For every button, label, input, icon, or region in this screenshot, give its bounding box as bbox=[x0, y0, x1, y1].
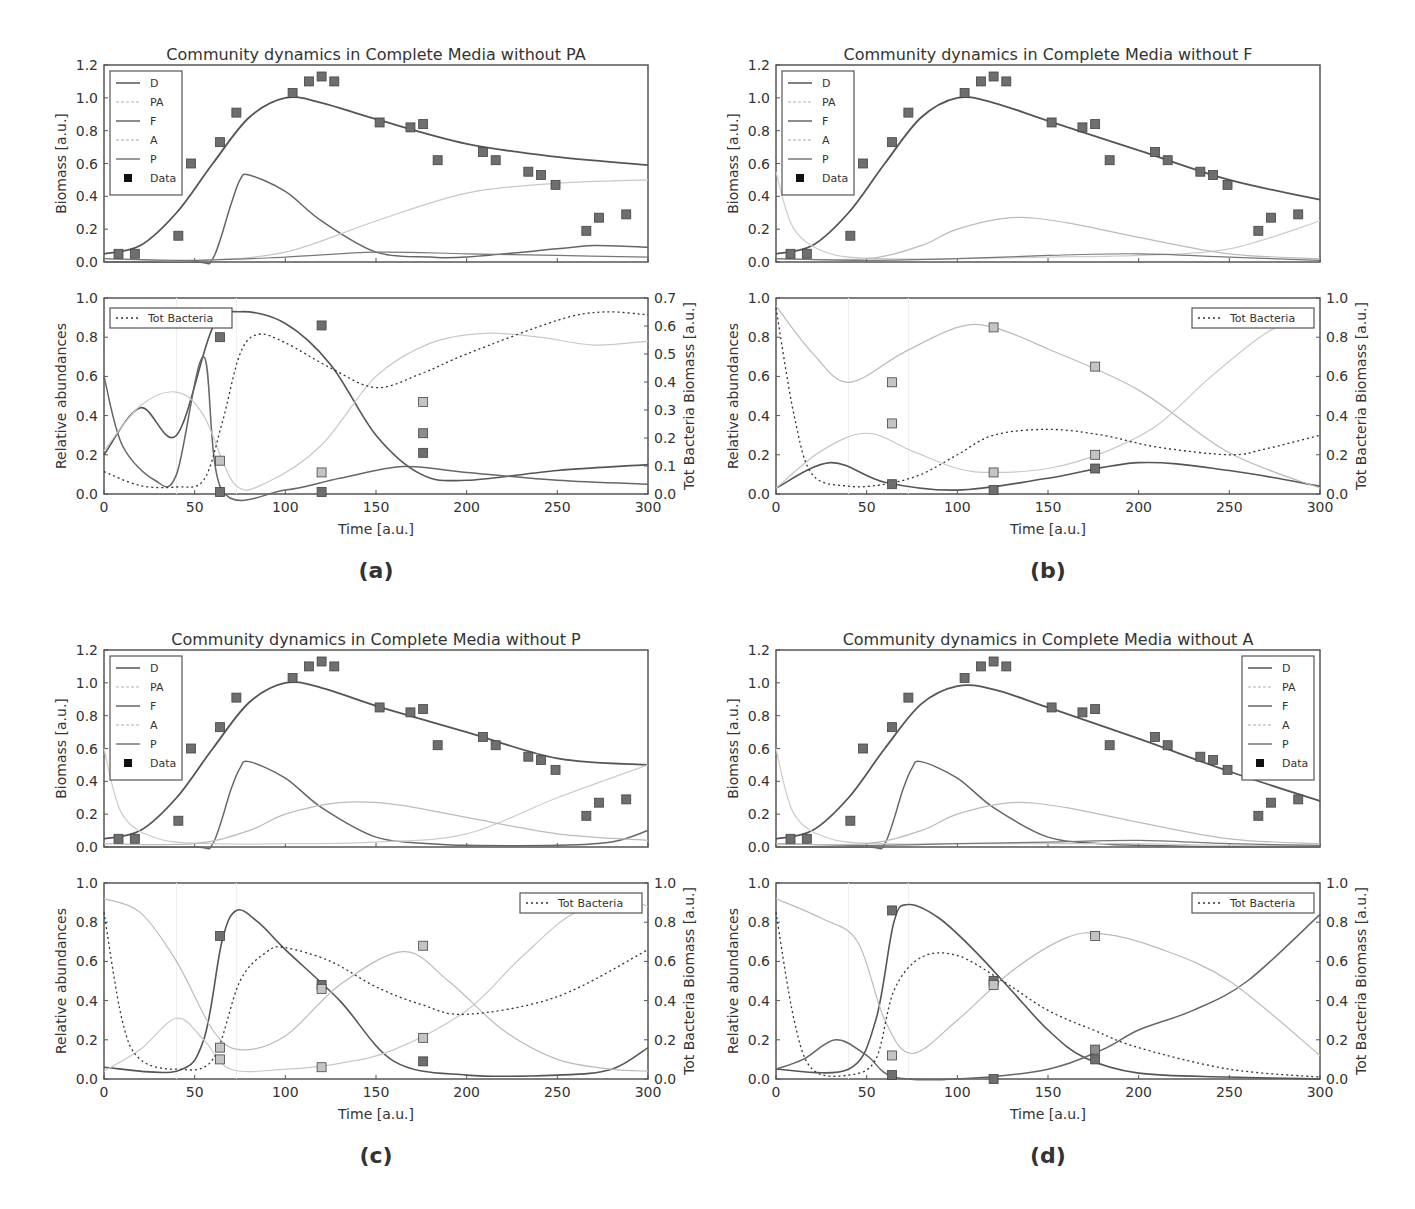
y-tick-label: 0.2 bbox=[748, 447, 770, 463]
subfigure-caption: (b) bbox=[1030, 558, 1066, 583]
data-marker bbox=[433, 156, 442, 165]
x-tick-label: 50 bbox=[858, 499, 876, 515]
relative-abundance-plot: 0.00.20.40.60.81.00.00.10.20.30.40.50.60… bbox=[53, 290, 697, 537]
data-marker bbox=[595, 798, 604, 807]
y-tick-label: 0.2 bbox=[76, 1032, 98, 1048]
data-marker bbox=[1091, 450, 1100, 459]
legend-label: PA bbox=[1282, 681, 1296, 694]
y-tick-label: 1.0 bbox=[76, 290, 98, 306]
data-marker bbox=[216, 138, 225, 147]
biomass-legend: DPAFAPData bbox=[782, 71, 854, 195]
figure-panel-c: Community dynamics in Complete Media wit… bbox=[0, 585, 720, 1174]
data-marker bbox=[888, 1051, 897, 1060]
x-tick-label: 100 bbox=[272, 1084, 299, 1100]
x-tick-label: 100 bbox=[944, 499, 971, 515]
legend-label: P bbox=[1282, 738, 1289, 751]
data-marker bbox=[904, 693, 913, 702]
x-tick-label: 200 bbox=[453, 1084, 480, 1100]
biomass-plot: 0.00.20.40.60.81.01.2Biomass [a.u.]DPAFA… bbox=[53, 57, 648, 270]
y2-tick-label: 0.8 bbox=[1326, 914, 1348, 930]
x-tick-label: 250 bbox=[544, 1084, 571, 1100]
data-marker bbox=[1091, 931, 1100, 940]
data-marker bbox=[216, 931, 225, 940]
data-marker bbox=[1002, 77, 1011, 86]
data-marker bbox=[1091, 1055, 1100, 1064]
data-marker bbox=[582, 811, 591, 820]
subfigure-caption: (c) bbox=[359, 1143, 392, 1168]
data-marker bbox=[1105, 156, 1114, 165]
data-marker bbox=[846, 816, 855, 825]
data-marker bbox=[1254, 226, 1263, 235]
data-marker bbox=[174, 231, 183, 240]
legend-label: PA bbox=[150, 681, 164, 694]
data-marker bbox=[551, 180, 560, 189]
data-marker bbox=[622, 210, 631, 219]
subfigure-caption: (a) bbox=[359, 558, 394, 583]
y-tick-label: 0.0 bbox=[76, 1071, 98, 1087]
x-tick-label: 50 bbox=[858, 1084, 876, 1100]
data-marker bbox=[960, 673, 969, 682]
data-marker bbox=[1267, 213, 1276, 222]
x-tick-label: 50 bbox=[186, 499, 204, 515]
legend-label: A bbox=[1282, 719, 1290, 732]
data-marker bbox=[859, 159, 868, 168]
x-tick-label: 100 bbox=[944, 1084, 971, 1100]
legend-label: P bbox=[150, 153, 157, 166]
data-marker bbox=[288, 673, 297, 682]
data-marker bbox=[216, 333, 225, 342]
data-marker bbox=[802, 834, 811, 843]
x-axis-label: Time [a.u.] bbox=[337, 521, 414, 537]
y-tick-label: 0.8 bbox=[748, 329, 770, 345]
x-tick-label: 300 bbox=[635, 1084, 662, 1100]
data-marker bbox=[1078, 123, 1087, 132]
y-tick-label: 0.4 bbox=[748, 188, 770, 204]
data-marker bbox=[888, 1071, 897, 1080]
legend-label: Data bbox=[822, 172, 848, 185]
data-marker bbox=[288, 88, 297, 97]
x-tick-label: 150 bbox=[1035, 499, 1062, 515]
legend-label: A bbox=[822, 134, 830, 147]
y-tick-label: 1.0 bbox=[748, 90, 770, 106]
y-tick-label: 1.0 bbox=[748, 290, 770, 306]
legend-label: F bbox=[1282, 700, 1288, 713]
data-marker bbox=[537, 170, 546, 179]
legend-label: A bbox=[150, 719, 158, 732]
data-marker bbox=[524, 167, 533, 176]
data-marker bbox=[419, 448, 428, 457]
data-marker bbox=[1209, 755, 1218, 764]
chart-svg-d: Community dynamics in Complete Media wit… bbox=[672, 585, 1392, 1170]
x-tick-label: 150 bbox=[363, 1084, 390, 1100]
legend-label: P bbox=[822, 153, 829, 166]
data-marker bbox=[888, 480, 897, 489]
x-axis-label: Time [a.u.] bbox=[337, 1106, 414, 1122]
x-tick-label: 300 bbox=[1307, 1084, 1334, 1100]
data-marker bbox=[1091, 705, 1100, 714]
x-tick-label: 100 bbox=[272, 499, 299, 515]
legend-label: Tot Bacteria bbox=[147, 312, 213, 325]
data-marker bbox=[187, 744, 196, 753]
x-tick-label: 0 bbox=[100, 1084, 109, 1100]
x-axis-label: Time [a.u.] bbox=[1009, 1106, 1086, 1122]
data-marker bbox=[904, 108, 913, 117]
data-marker bbox=[174, 816, 183, 825]
data-marker bbox=[1047, 703, 1056, 712]
x-tick-label: 300 bbox=[635, 499, 662, 515]
y-tick-label: 0.2 bbox=[748, 1032, 770, 1048]
data-marker bbox=[406, 708, 415, 717]
legend-label: PA bbox=[150, 96, 164, 109]
chart-svg-c: Community dynamics in Complete Media wit… bbox=[0, 585, 720, 1170]
data-marker bbox=[1223, 765, 1232, 774]
data-marker bbox=[232, 693, 241, 702]
x-tick-label: 150 bbox=[363, 499, 390, 515]
y-tick-label: 0.8 bbox=[76, 123, 98, 139]
y-tick-label: 0.4 bbox=[748, 408, 770, 424]
data-marker bbox=[419, 1033, 428, 1042]
y2-tick-label: 0.2 bbox=[1326, 447, 1348, 463]
chart-svg-a: Community dynamics in Complete Media wit… bbox=[0, 0, 720, 585]
data-marker bbox=[888, 419, 897, 428]
legend-label: D bbox=[150, 662, 158, 675]
chart-title: Community dynamics in Complete Media wit… bbox=[844, 45, 1253, 64]
data-marker bbox=[1163, 156, 1172, 165]
y-tick-label: 0.6 bbox=[748, 741, 770, 757]
data-marker bbox=[114, 834, 123, 843]
